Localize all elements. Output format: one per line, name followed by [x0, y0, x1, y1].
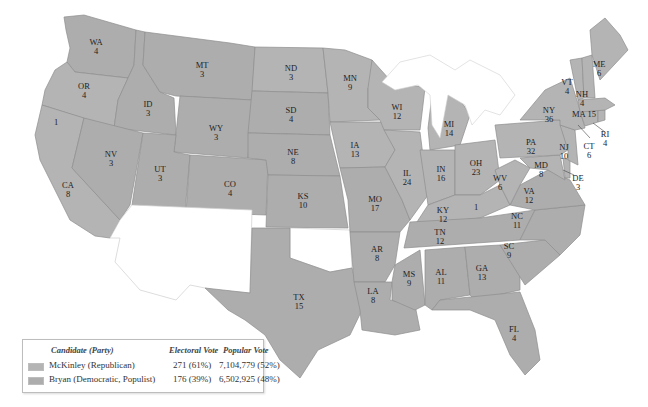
legend-row-bryan: Bryan (Democratic, Populist) 176 (39%) 6…: [23, 374, 263, 388]
legend-candidate: Bryan (Democratic, Populist): [49, 374, 155, 384]
legend-electoral: 176 (39%): [173, 374, 211, 384]
state-ri[interactable]: [598, 110, 605, 122]
svg-text:CT6: CT6: [584, 141, 596, 160]
svg-text:MI14: MI14: [444, 119, 455, 138]
legend-header-candidate: Candidate (Party): [51, 345, 114, 355]
territory-az-nm: [110, 205, 252, 300]
legend-popular: 6,502,925 (48%): [219, 374, 280, 384]
svg-text:MA 15: MA 15: [572, 109, 596, 119]
legend-header-electoral: Electoral Vote: [169, 345, 218, 355]
state-me[interactable]: [590, 18, 628, 80]
mckinley-swatch: [28, 363, 44, 371]
state-fl[interactable]: [432, 292, 540, 375]
legend-header-popular: Popular Vote: [223, 345, 269, 355]
svg-text:IN16: IN16: [437, 164, 446, 183]
legend-popular: 7,104,779 (52%): [219, 360, 280, 370]
svg-text:AL11: AL11: [435, 267, 446, 286]
legend-row-mckinley: McKinley (Republican) 271 (61%) 7,104,77…: [23, 360, 263, 374]
svg-text:TN12: TN12: [434, 227, 445, 246]
svg-text:IL24: IL24: [403, 168, 412, 187]
svg-text:IA13: IA13: [351, 140, 361, 159]
svg-text:TX15: TX15: [293, 292, 304, 311]
svg-text:KS10: KS10: [298, 191, 309, 210]
svg-text:WI12: WI12: [392, 102, 403, 121]
svg-text:NJ10: NJ10: [559, 142, 569, 161]
legend: Candidate (Party) Electoral Vote Popular…: [22, 339, 264, 393]
svg-text:1: 1: [474, 202, 478, 212]
bryan-swatch: [28, 377, 44, 385]
legend-electoral: 271 (61%): [173, 360, 211, 370]
svg-text:1: 1: [54, 117, 58, 127]
legend-candidate: McKinley (Republican): [49, 360, 135, 370]
